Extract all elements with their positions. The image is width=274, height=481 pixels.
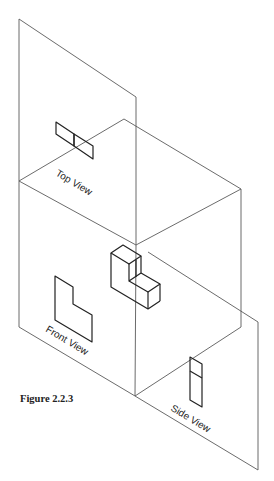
box-right-edge — [135, 189, 241, 396]
front-view-label: Front View — [44, 323, 91, 357]
top-view-plane — [19, 19, 136, 245]
top-view-label: Top View — [54, 167, 95, 198]
side-view-projection — [190, 357, 202, 407]
figure-caption: Figure 2.2.3 — [20, 393, 73, 404]
projection-diagram: Top View Front View Side View — [0, 0, 274, 481]
horizontal-plane — [19, 119, 241, 245]
